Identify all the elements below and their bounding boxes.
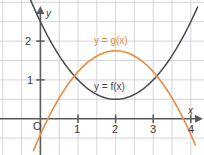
x-axis-arrow [195, 115, 203, 123]
y-tick-label-2: 2 [25, 36, 31, 47]
curve-g-annotation: y = g(x) [94, 36, 128, 46]
math-graph-figure: O 1 2 3 4 1 2 y x y = g(x) y = f(x) [0, 0, 204, 155]
x-axis-label: x [188, 106, 193, 116]
y-axis-arrow [36, 6, 44, 14]
origin-label: O [33, 121, 42, 132]
x-tick-label-2: 2 [112, 124, 118, 135]
x-tick-label-4: 4 [188, 124, 194, 135]
y-tick-label-1: 1 [27, 75, 33, 86]
x-tick-label-1: 1 [74, 124, 80, 135]
curve-g [34, 51, 196, 151]
y-axis-label: y [46, 9, 51, 19]
curve-f-annotation: y = f(x) [94, 82, 125, 92]
x-tick-label-3: 3 [150, 124, 156, 135]
